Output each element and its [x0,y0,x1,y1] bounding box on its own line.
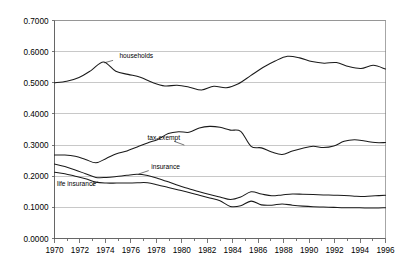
x-tick-label: 1970 [45,246,64,255]
x-tick-label: 1990 [300,246,319,255]
x-tick-label: 1974 [96,246,115,255]
series-label-insurance: insurance [151,163,180,170]
y-tick-label: 0.3000 [23,141,48,150]
x-tick-label: 1986 [249,246,268,255]
series-label-tax-exempt: tax-exempt [147,134,180,142]
series-label-households: households [119,52,153,59]
line-chart: 0.00000.10000.20000.30000.40000.50000.60… [0,0,403,267]
y-tick-label: 0.2000 [23,172,48,181]
x-tick-label: 1972 [71,246,90,255]
grid-lines [55,21,386,239]
x-tick-label: 1982 [198,246,217,255]
y-tick-label: 0.5000 [23,79,48,88]
x-tick-label: 1994 [351,246,370,255]
y-axis-tick-labels: 0.00000.10000.20000.30000.40000.50000.60… [23,17,54,244]
y-tick-label: 0.4000 [23,110,48,119]
y-tick-label: 0.7000 [23,17,48,26]
chart-container: 0.00000.10000.20000.30000.40000.50000.60… [0,0,403,267]
plot-frame [55,21,386,239]
x-tick-label: 1976 [122,246,141,255]
x-tick-label: 1978 [147,246,166,255]
leader-line-tax-exempt [174,141,184,145]
leader-line-insurance [139,171,149,174]
y-tick-label: 0.1000 [23,203,48,212]
x-axis-tick-labels: 1970197219741976197819801982198419861988… [45,239,395,255]
data-series-lines [55,56,386,208]
series-line-insurance [55,164,386,200]
x-tick-label: 1992 [325,246,344,255]
leader-line-households [104,60,113,62]
x-tick-label: 1980 [173,246,192,255]
x-tick-label: 1984 [224,246,243,255]
x-tick-label: 1988 [275,246,294,255]
series-line-tax-exempt [55,126,386,162]
series-line-households [55,56,386,90]
y-tick-label: 0.6000 [23,48,48,57]
series-label-life-insurance: life insurance [57,180,96,187]
x-tick-label: 1996 [376,246,395,255]
y-tick-label: 0.0000 [23,235,48,244]
